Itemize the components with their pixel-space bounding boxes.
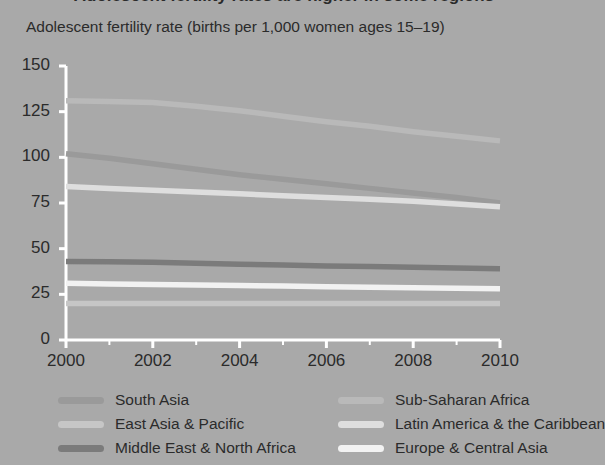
series-line-middle-east-north-africa <box>66 261 500 268</box>
legend-item-label: Middle East & North Africa <box>115 440 296 456</box>
y-tick-label: 75 <box>0 192 50 212</box>
x-tick-label: 2010 <box>460 351 540 371</box>
legend-item[interactable]: Latin America & the Caribbean <box>338 412 605 436</box>
legend-swatch-icon <box>58 445 104 452</box>
legend-column-right: Sub-Saharan AfricaLatin America & the Ca… <box>338 388 605 460</box>
legend-item[interactable]: Middle East & North Africa <box>58 436 296 460</box>
legend-swatch-icon <box>58 397 104 404</box>
y-tick-label: 125 <box>0 101 50 121</box>
legend-item[interactable]: South Asia <box>58 388 296 412</box>
x-tick-label: 2008 <box>373 351 453 371</box>
series-line-europe-central-asia <box>66 283 500 288</box>
legend-item[interactable]: East Asia & Pacific <box>58 412 296 436</box>
legend-swatch-icon <box>58 421 104 428</box>
legend-item-label: Europe & Central Asia <box>395 440 548 456</box>
legend-swatch-icon <box>338 397 384 404</box>
y-tick-label: 25 <box>0 283 50 303</box>
x-tick-label: 2002 <box>113 351 193 371</box>
legend-swatch-icon <box>338 421 384 428</box>
legend-item-label: East Asia & Pacific <box>115 416 244 432</box>
legend-item[interactable]: Sub-Saharan Africa <box>338 388 605 412</box>
legend-column-left: South AsiaEast Asia & PacificMiddle East… <box>58 388 296 460</box>
series-line-sub-saharan-africa <box>66 101 500 141</box>
legend-item-label: South Asia <box>115 392 189 408</box>
legend-item[interactable]: Europe & Central Asia <box>338 436 605 460</box>
legend-item-label: Sub-Saharan Africa <box>395 392 529 408</box>
y-tick-label: 100 <box>0 146 50 166</box>
x-tick-label: 2006 <box>286 351 366 371</box>
y-tick-label: 150 <box>0 55 50 75</box>
y-tick-label: 0 <box>0 329 50 349</box>
x-tick-label: 2000 <box>26 351 106 371</box>
legend-swatch-icon <box>338 445 384 452</box>
x-tick-label: 2004 <box>200 351 280 371</box>
legend-item-label: Latin America & the Caribbean <box>395 416 605 432</box>
y-tick-label: 50 <box>0 238 50 258</box>
